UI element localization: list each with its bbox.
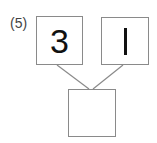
answer-box[interactable] [68,89,116,137]
left-connector-line [57,65,89,89]
right-connector-line [93,65,123,89]
